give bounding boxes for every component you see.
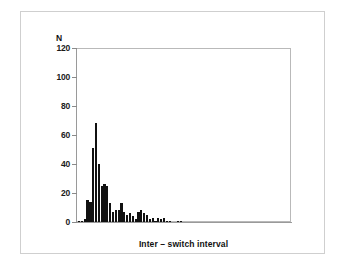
y-axis-tick bbox=[72, 193, 77, 194]
y-axis-tick bbox=[72, 77, 77, 78]
y-axis-tick-label: 100 bbox=[42, 73, 70, 82]
y-axis-tick bbox=[72, 164, 77, 165]
histogram-bar bbox=[180, 221, 182, 222]
y-axis-tick bbox=[72, 106, 77, 107]
y-axis-tick-label: 80 bbox=[42, 102, 70, 111]
histogram-bars bbox=[76, 48, 291, 222]
y-axis-tick-label: 120 bbox=[42, 44, 70, 53]
y-axis-tick bbox=[72, 48, 77, 49]
x-axis-title: Inter – switch interval bbox=[76, 239, 291, 249]
y-axis-tick-labels: 020406080100120 bbox=[38, 0, 70, 271]
y-axis-tick bbox=[72, 135, 77, 136]
histogram-bar bbox=[169, 221, 171, 222]
y-axis-tick-label: 60 bbox=[42, 131, 70, 140]
y-axis-tick bbox=[72, 222, 77, 223]
y-axis-tick-label: 40 bbox=[42, 160, 70, 169]
y-axis-tick-label: 20 bbox=[42, 189, 70, 198]
y-axis-title: N bbox=[56, 33, 62, 43]
histogram-figure: 020406080100120 N Inter – switch interva… bbox=[0, 0, 347, 271]
y-axis-tick-label: 0 bbox=[42, 218, 70, 227]
x-axis-line bbox=[76, 222, 292, 223]
